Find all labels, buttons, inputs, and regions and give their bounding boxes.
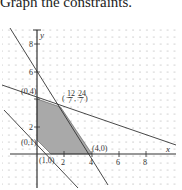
y-tick-6: 6 bbox=[29, 68, 33, 77]
y-tick-2: 2 bbox=[29, 123, 33, 132]
x-tick-4: 4 bbox=[89, 158, 93, 167]
svg-text:(: ( bbox=[62, 94, 65, 103]
constraint-graph: y x 2 4 6 8 2 6 8 (0,4) (0,1) (1,0) (4,0… bbox=[0, 0, 182, 190]
y-tick-8: 8 bbox=[29, 40, 33, 49]
svg-text:7: 7 bbox=[79, 96, 83, 105]
x-tick-8: 8 bbox=[143, 158, 147, 167]
x-tick-2: 2 bbox=[61, 158, 65, 167]
vertex-label-0-1: (0,1) bbox=[21, 138, 37, 147]
y-axis-label: y bbox=[39, 30, 44, 40]
x-axis-label: x bbox=[165, 144, 170, 154]
svg-text:7: 7 bbox=[68, 96, 72, 105]
vertex-label-1-0: (1,0) bbox=[39, 156, 55, 165]
svg-text:,: , bbox=[74, 94, 76, 103]
x-tick-6: 6 bbox=[116, 158, 120, 167]
svg-text:): ) bbox=[85, 94, 88, 103]
vertex-label-0-4: (0,4) bbox=[21, 87, 37, 96]
vertex-label-4-0: (4,0) bbox=[92, 144, 108, 153]
